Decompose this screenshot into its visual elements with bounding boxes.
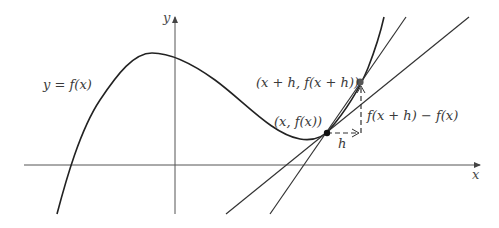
point-b-label: (x + h, f(x + h)) xyxy=(256,76,359,89)
derivative-diagram: y x y = f(x) (x, f(x)) (x + h, f(x + h))… xyxy=(0,0,499,228)
delta-y-label: f(x + h) − f(x) xyxy=(367,109,458,122)
point-a-label: (x, f(x)) xyxy=(274,115,322,128)
y-axis-label: y xyxy=(163,11,170,24)
x-axis-label: x xyxy=(472,168,479,181)
function-curve xyxy=(57,17,384,214)
h-label: h xyxy=(338,137,346,150)
point-x-fx xyxy=(324,130,330,136)
curve-label: y = f(x) xyxy=(43,78,92,91)
